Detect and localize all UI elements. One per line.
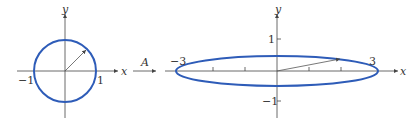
transform-arrow: A [133,56,156,71]
right-tick-pos3: 3 [369,55,376,68]
transform-label: A [140,56,149,69]
left-radius-vector [65,50,86,71]
linear-transform-diagram: y x −1 1 A y x −3 3 1 −1 [0,0,410,126]
right-tick-y-neg1: −1 [262,95,278,108]
right-x-axis-label: x [400,65,407,78]
right-y-axis-label: y [274,3,282,16]
right-tick-neg3: −3 [170,55,186,68]
left-x-axis-label: x [121,65,128,78]
left-tick-pos1: 1 [97,74,104,87]
right-plot: y x −3 3 1 −1 [165,3,407,118]
left-tick-neg1: −1 [18,74,34,87]
right-image-vector [277,59,340,71]
left-plot: y x −1 1 [17,3,128,118]
right-tick-y-pos1: 1 [268,33,275,46]
left-y-axis-label: y [61,3,69,16]
